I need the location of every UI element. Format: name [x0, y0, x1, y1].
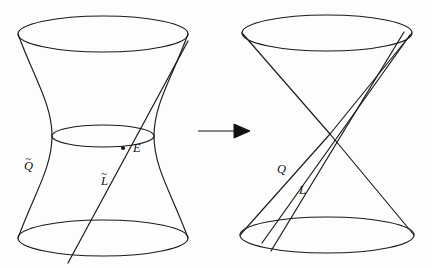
cone-top-ellipse	[242, 15, 412, 51]
figure-drawing	[0, 0, 432, 268]
cone-lower-left-generator	[240, 134, 330, 235]
label-l: L	[299, 184, 306, 197]
cone-upper-left-generator	[242, 33, 330, 134]
label-e: E	[133, 142, 141, 155]
point-e-dot	[121, 146, 125, 150]
cone-group	[240, 15, 414, 253]
transition-arrow-group	[198, 124, 250, 138]
arrow-head	[234, 124, 250, 138]
label-q: Q	[277, 163, 286, 176]
cone-ruling-l	[271, 32, 404, 251]
hyperboloid-right-silhouette	[154, 34, 188, 238]
tilde-accent-icon: ~	[25, 153, 31, 164]
hyperboloid-top-ellipse	[18, 16, 188, 52]
hyperboloid-ruling-line	[68, 41, 188, 263]
tilde-accent-icon: ~	[101, 168, 107, 179]
figure-container: ~ Q ~ L E Q L	[0, 0, 432, 268]
hyperboloid-left-silhouette	[18, 34, 52, 238]
label-l-tilde: ~ L	[101, 175, 108, 188]
cone-ruling-q	[262, 35, 410, 243]
hyperboloid-group	[18, 16, 188, 263]
hyperboloid-bottom-ellipse	[18, 220, 188, 256]
label-q-tilde: ~ Q	[24, 160, 33, 173]
cone-bottom-ellipse	[240, 217, 414, 253]
